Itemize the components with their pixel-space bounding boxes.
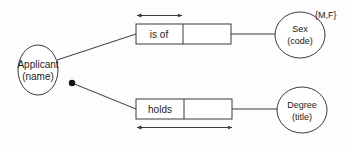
relationship-is-of[interactable]: is of: [136, 24, 231, 44]
connector-applicant-holds: [72, 83, 136, 109]
relationship-holds-label: holds: [148, 104, 172, 115]
relationship-holds[interactable]: holds: [136, 99, 232, 119]
entity-applicant[interactable]: Applicant (name): [17, 45, 58, 95]
entity-degree[interactable]: Degree (title): [277, 87, 327, 133]
entity-sex-key: (code): [287, 36, 313, 46]
entity-degree-name: Degree: [287, 100, 317, 110]
entity-degree-ellipse: [277, 87, 327, 133]
entity-applicant-key: (name): [22, 71, 54, 82]
connector-applicant-is-of: [57, 34, 136, 60]
mandatory-dot-icon: [69, 80, 75, 86]
entity-sex-name: Sex: [292, 24, 308, 34]
value-constraint-label: {M,F}: [315, 10, 337, 20]
entity-applicant-name: Applicant: [17, 59, 58, 70]
entity-degree-key: (title): [292, 112, 312, 122]
entity-applicant-ellipse: [18, 45, 58, 95]
er-diagram: Applicant (name) is of Sex (code) {M,F} …: [0, 0, 351, 147]
relationship-is-of-label: is of: [150, 29, 169, 40]
